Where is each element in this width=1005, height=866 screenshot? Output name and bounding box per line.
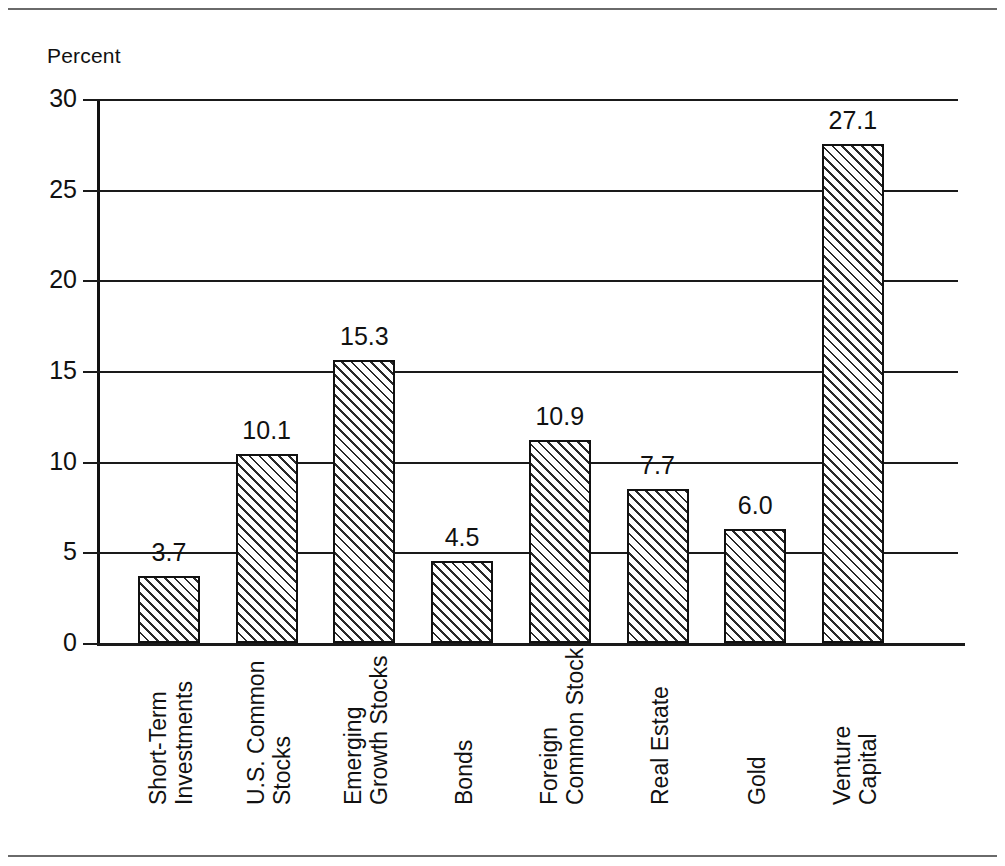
category-label-line: Capital [855, 726, 881, 805]
category-label-line: Venture [829, 726, 855, 805]
y-tick-label: 15 [31, 358, 77, 383]
y-axis-title: Percent [47, 44, 121, 68]
bar [333, 360, 395, 643]
category-label: Real Estate [647, 686, 673, 805]
y-tick-label: 0 [31, 630, 77, 655]
gridline [97, 99, 958, 101]
y-axis-tick [83, 462, 97, 464]
bar [822, 144, 884, 643]
category-label-line: Stocks [269, 661, 295, 805]
bar-value-label: 10.1 [212, 418, 322, 443]
y-axis-tick [83, 643, 97, 645]
category-label: U.S. CommonStocks [243, 661, 295, 805]
bottom-divider-rule [8, 855, 997, 857]
category-label: Gold [744, 756, 770, 805]
chart-page: Percent 3.710.115.34.510.97.76.027.1 051… [0, 0, 1005, 866]
bar [431, 561, 493, 643]
category-label-line: Investments [171, 681, 197, 805]
category-label-line: Foreign [536, 648, 562, 805]
bar [724, 529, 786, 643]
bar [529, 440, 591, 643]
y-axis-tick [83, 371, 97, 373]
y-tick-label: 20 [31, 267, 77, 292]
bar [138, 576, 200, 643]
y-axis-tick [83, 552, 97, 554]
category-label-line: Real Estate [647, 686, 673, 805]
category-label-line: Bonds [451, 740, 477, 805]
y-tick-label: 25 [31, 177, 77, 202]
category-label: VentureCapital [829, 726, 881, 805]
y-axis-tick [83, 190, 97, 192]
y-tick-label: 10 [31, 449, 77, 474]
bar [236, 454, 298, 643]
bar-value-label: 27.1 [798, 108, 908, 133]
bar-value-label: 10.9 [505, 404, 615, 429]
category-label-line: Short-Term [145, 681, 171, 805]
top-divider-rule [8, 8, 997, 10]
y-tick-label: 30 [31, 86, 77, 111]
category-label-line: Growth Stocks [366, 655, 392, 805]
bar [627, 489, 689, 643]
bar-value-label: 7.7 [603, 453, 713, 478]
category-label-line: U.S. Common [243, 661, 269, 805]
x-axis-baseline [97, 643, 965, 646]
category-label: Short-TermInvestments [145, 681, 197, 805]
y-tick-label: 5 [31, 539, 77, 564]
plot-area: 3.710.115.34.510.97.76.027.1 [97, 99, 958, 643]
bar-value-label: 15.3 [309, 324, 419, 349]
bar-value-label: 3.7 [114, 540, 224, 565]
category-label-line: Common Stock [562, 648, 588, 805]
category-label-line: Emerging [340, 655, 366, 805]
category-label: Bonds [451, 740, 477, 805]
y-axis-tick [83, 280, 97, 282]
category-label: EmergingGrowth Stocks [340, 655, 392, 805]
category-label-line: Gold [744, 756, 770, 805]
bar-value-label: 4.5 [407, 525, 517, 550]
category-label: ForeignCommon Stock [536, 648, 588, 805]
bar-value-label: 6.0 [700, 493, 810, 518]
y-axis-tick [83, 99, 97, 101]
